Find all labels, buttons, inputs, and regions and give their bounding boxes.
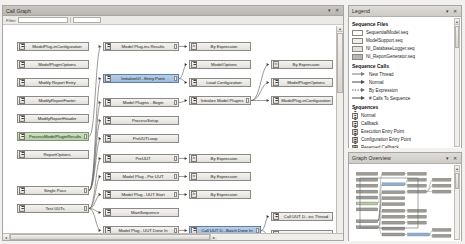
graph-node[interactable]: ≣ModelPlug-inConfiguration xyxy=(17,42,89,51)
legend-item: New Thread xyxy=(352,70,458,78)
overview-node xyxy=(356,208,378,211)
graph-node[interactable]: ≣ModifyReportHeader xyxy=(17,114,89,123)
graph-node-label: By Expression xyxy=(198,192,250,197)
graph-node-label: By Expression xyxy=(198,156,250,161)
graph-node-connector[interactable] xyxy=(174,192,177,197)
graph-scroll-up-icon[interactable]: ▴ xyxy=(337,26,343,32)
graph-node-connector[interactable] xyxy=(84,134,87,139)
filter-input[interactable] xyxy=(18,17,68,23)
graph-node-connector[interactable] xyxy=(246,98,249,103)
call-graph-canvas[interactable]: ≣ModelPlug-inConfiguration≣ModelPluginOp… xyxy=(3,26,343,233)
graph-node[interactable]: ≣ModelOptions xyxy=(189,60,251,69)
graph-node-label: InitializeUI - Entry Point xyxy=(112,76,174,81)
sequence-icon: ≣ xyxy=(273,97,279,104)
overview-node xyxy=(432,184,451,187)
legend-item: ≣Normal xyxy=(352,112,458,120)
legend-scrollbar[interactable]: ▴ xyxy=(454,18,460,147)
graph-node-label: ModifyReportHeader xyxy=(26,116,88,121)
graph-node-label: PreUUTLoop xyxy=(112,136,178,141)
graph-node[interactable]: ≣ModelPluginOptions xyxy=(271,78,333,87)
overview-scroll-thumb[interactable] xyxy=(455,173,459,189)
minimize-icon[interactable]: ▾ xyxy=(326,7,333,14)
sequence-icon: ≣ xyxy=(105,191,111,198)
overview-close-icon[interactable]: ✕ xyxy=(451,155,458,162)
sequence-icon: ≣ xyxy=(19,187,25,194)
overview-edge xyxy=(426,180,432,192)
graph-edge-arrowhead xyxy=(267,63,269,66)
graph-node-label: MainSequence xyxy=(112,210,178,215)
legend-scroll-thumb[interactable] xyxy=(455,26,459,48)
graph-node-connector[interactable] xyxy=(174,174,177,179)
graph-node[interactable]: ≣InitializeUI - Entry Point xyxy=(103,74,179,83)
legend-scroll-up-icon[interactable]: ▴ xyxy=(455,19,459,25)
graph-horizontal-scrollbar[interactable]: ◂ ▸ xyxy=(3,233,343,240)
graph-node[interactable]: fxBy Expression xyxy=(189,190,251,199)
graph-node[interactable]: ≣Call UUT D...Batch Done In xyxy=(189,226,261,233)
graph-node[interactable]: ≣Model Plug-ins Results xyxy=(103,42,179,51)
graph-node[interactable]: ≣Model Plug - UUT Start xyxy=(103,190,179,199)
overview-node xyxy=(356,184,378,187)
graph-hscroll-thumb[interactable] xyxy=(10,234,210,240)
overview-node xyxy=(356,190,378,193)
graph-node[interactable]: ≣ModelPluginOptions xyxy=(17,60,89,69)
legend-sequence-icon: ≣ xyxy=(352,145,358,149)
graph-node-label: ModelPluginOptions xyxy=(280,80,332,85)
graph-vscroll-thumb[interactable] xyxy=(337,33,343,93)
graph-node[interactable]: fxBy Expression xyxy=(189,154,251,163)
overview-scroll-up-icon[interactable]: ▴ xyxy=(455,166,459,172)
legend-item: NI_DatabaseLogger.seq xyxy=(352,45,458,53)
graph-node[interactable]: ≣ModifyReportFooter xyxy=(17,96,89,105)
graph-node[interactable]: ≣Model Plug - UUT Done In xyxy=(103,226,179,233)
graph-node-connector[interactable] xyxy=(174,76,177,81)
graph-node[interactable]: ≣Call UUT D...inc Thread xyxy=(271,212,333,221)
call-graph-titlebar: Call Graph ▾ ✕ xyxy=(3,6,343,16)
graph-node-connector[interactable] xyxy=(84,188,87,193)
graph-node[interactable]: ≣ReportOptions xyxy=(17,150,89,159)
zoom-combobox[interactable] xyxy=(73,17,101,23)
graph-node[interactable]: ≣PreUUTLoop xyxy=(103,134,179,143)
graph-node-label: ProcessSetup xyxy=(112,118,178,123)
graph-node[interactable]: ≣Model Plug - Pre UUT xyxy=(103,172,179,181)
legend-arrow-icon xyxy=(352,87,366,93)
graph-node[interactable]: ≣Model Plugins - Begin xyxy=(103,98,179,107)
graph-node-label: ModifyReportFooter xyxy=(26,98,88,103)
graph-node[interactable]: ≣Test UUTs xyxy=(17,204,89,213)
fx-icon: fx xyxy=(273,61,279,68)
legend-sequence-icon: ≣ xyxy=(352,121,358,127)
graph-node[interactable]: ≣MainSequence xyxy=(103,208,179,217)
legend-panel: Legend ▾ ✕ Sequence FilesSequentialModel… xyxy=(348,5,462,148)
graph-node[interactable]: fxBy Expression xyxy=(189,172,251,181)
graph-node-connector[interactable] xyxy=(174,156,177,161)
graph-node[interactable]: fxBy Expression xyxy=(189,42,251,51)
graph-vertical-scrollbar[interactable]: ▴ xyxy=(336,26,343,233)
legend-item: ≣Execution Entry Point xyxy=(352,128,458,136)
overview-scrollbar[interactable]: ▴ xyxy=(454,165,460,240)
overview-body[interactable] xyxy=(349,164,461,241)
legend-close-icon[interactable]: ✕ xyxy=(451,8,458,15)
graph-scroll-right-icon[interactable]: ▸ xyxy=(210,234,217,240)
overview-node xyxy=(408,215,427,218)
graph-node[interactable]: ≣PreUUT xyxy=(103,154,179,163)
graph-node[interactable]: ≣ProcessModelPluginResults xyxy=(17,132,89,141)
graph-node[interactable]: ≣ModelPlug-inConfiguration xyxy=(271,96,333,105)
overview-collapse-icon[interactable]: ▾ xyxy=(444,155,451,162)
graph-node-label: Initialize Model Plugins xyxy=(198,98,246,103)
legend-color-swatch xyxy=(352,54,363,60)
graph-node[interactable]: ≣ProcessSetup xyxy=(103,116,179,125)
graph-scroll-left-icon[interactable]: ◂ xyxy=(3,234,10,240)
graph-node-connector[interactable] xyxy=(174,44,177,49)
graph-node[interactable]: ≣Initialize Model Plugins xyxy=(189,96,251,105)
graph-node-connector[interactable] xyxy=(174,100,177,105)
graph-node[interactable]: ≣Single Pass xyxy=(17,186,89,195)
legend-collapse-icon[interactable]: ▾ xyxy=(444,8,451,15)
graph-node[interactable]: ≣Load Configuration xyxy=(189,78,251,87)
overview-node xyxy=(382,203,405,206)
graph-node[interactable]: ≣Modify Report Entry xyxy=(17,78,89,87)
graph-node-connector[interactable] xyxy=(84,206,87,211)
sequence-icon: ≣ xyxy=(105,155,111,162)
sequence-icon: ≣ xyxy=(19,133,25,140)
close-icon[interactable]: ✕ xyxy=(333,7,340,14)
graph-node[interactable]: fxBy Expression xyxy=(271,60,333,69)
sequence-icon: ≣ xyxy=(19,151,25,158)
overview-edge xyxy=(405,180,408,185)
